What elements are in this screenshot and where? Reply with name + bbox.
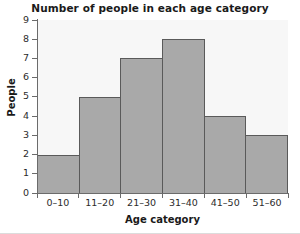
chart-title: Number of people in each age category [0, 2, 300, 14]
y-tick-7 [32, 58, 37, 59]
bar-11-20 [79, 97, 122, 193]
y-tick-2 [32, 154, 37, 155]
y-tick-label-9: 9 [0, 15, 29, 25]
x-tick-label-4: 41–50 [204, 197, 246, 209]
bar-0-10 [37, 155, 80, 193]
histogram-figure: Number of people in each age category 01… [0, 0, 300, 234]
y-tick-label-8: 8 [0, 34, 29, 44]
bar-series [37, 20, 288, 193]
y-axis-line [37, 19, 38, 194]
x-tick-label-5: 51–60 [246, 197, 288, 209]
x-axis-title: Age category [37, 214, 288, 225]
y-tick-label-3: 3 [0, 130, 29, 140]
y-tick-label-2: 2 [0, 149, 29, 159]
x-tick-label-1: 11–20 [79, 197, 121, 209]
bar-51-60 [245, 135, 288, 193]
y-tick-8 [32, 39, 37, 40]
y-tick-label-7: 7 [0, 53, 29, 63]
y-axis-title: People [6, 68, 17, 128]
y-tick-1 [32, 173, 37, 174]
y-tick-4 [32, 116, 37, 117]
y-tick-3 [32, 135, 37, 136]
bar-31-40 [162, 39, 205, 193]
y-tick-label-0: 0 [0, 188, 29, 198]
y-tick-9 [32, 20, 37, 21]
x-tick-label-0: 0–10 [37, 197, 79, 209]
y-tick-6 [32, 77, 37, 78]
y-tick-5 [32, 96, 37, 97]
plot-area [37, 20, 288, 193]
bar-21-30 [120, 58, 163, 193]
y-tick-label-1: 1 [0, 168, 29, 178]
x-tick-label-2: 21–30 [121, 197, 163, 209]
bar-41-50 [204, 116, 247, 193]
x-tick-label-3: 31–40 [163, 197, 205, 209]
